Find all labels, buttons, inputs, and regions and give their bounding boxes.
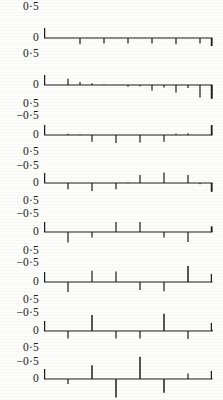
plot-area-panel-4 [44,152,223,202]
y-tick-label-zero-panel-8: 0 [33,373,39,384]
stem-plot-svg-4 [44,152,223,202]
plot-area-panel-7 [44,302,223,352]
plot-area-panel-1 [44,6,223,56]
y-tick-label-upper-panel-2: 0·5 [23,48,39,59]
y-tick-label-upper-panel-4: 0·5 [23,146,39,157]
y-tick-label-zero-panel-2: 0 [33,79,39,90]
y-tick-label-upper-panel-7: 0·5 [23,294,39,305]
y-tick-label-zero-panel-3: 0 [33,129,39,140]
stem-plot-svg-2 [44,55,223,105]
stem-panel-8: 0·50−0·5 [0,350,223,400]
y-tick-label-zero-panel-1: 0 [33,32,39,43]
stem-plot-svg-6 [44,252,223,302]
plot-area-panel-8 [44,350,223,400]
y-tick-label-upper-panel-1: 0·5 [23,1,39,12]
plot-area-panel-2 [44,55,223,105]
y-tick-label-upper-panel-3: 0·5 [23,98,39,109]
stem-plot-svg-7 [44,302,223,352]
multi-panel-stem-figure: 0·500·50−0·50·50−0·50·50−0·50·50−0·50·50… [0,0,223,400]
y-axis-labels-panel-8: 0·50−0·5 [0,350,42,400]
stem-plot-svg-3 [44,105,223,155]
y-tick-label-upper-panel-5: 0·5 [23,195,39,206]
plot-area-panel-5 [44,202,223,252]
y-tick-label-upper-panel-8: 0·5 [23,342,39,353]
y-tick-label-upper-panel-6: 0·5 [23,245,39,256]
y-tick-label-zero-panel-6: 0 [33,276,39,287]
stem-plot-svg-8 [44,350,223,400]
plot-area-panel-6 [44,252,223,302]
y-tick-label-zero-panel-7: 0 [33,325,39,336]
stem-plot-svg-5 [44,202,223,252]
y-tick-label-zero-panel-4: 0 [33,177,39,188]
plot-area-panel-3 [44,105,223,155]
y-tick-label-zero-panel-5: 0 [33,226,39,237]
stem-plot-svg-1 [44,6,223,56]
